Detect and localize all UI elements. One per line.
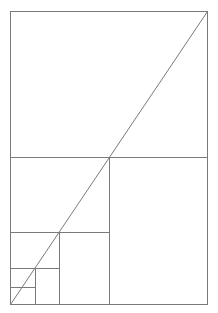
subdivision-lines — [11, 158, 208, 305]
golden-rectangle-diagram — [0, 0, 218, 313]
